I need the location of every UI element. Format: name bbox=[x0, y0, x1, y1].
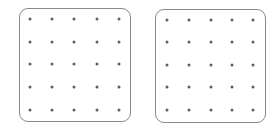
grid-dot bbox=[29, 41, 32, 44]
grid-dot bbox=[252, 64, 255, 67]
grid-dot bbox=[210, 19, 213, 22]
grid-dot bbox=[252, 19, 255, 22]
grid-dot bbox=[96, 18, 99, 21]
grid-dot bbox=[252, 86, 255, 89]
grid-dot bbox=[51, 109, 54, 112]
grid-dot bbox=[73, 109, 76, 112]
grid-dot bbox=[96, 109, 99, 112]
grid-dot bbox=[231, 19, 234, 22]
grid-dot bbox=[188, 41, 191, 44]
grid-dot bbox=[231, 64, 234, 67]
grid-dot bbox=[29, 63, 32, 66]
grid-dot bbox=[73, 18, 76, 21]
grid-dot bbox=[51, 41, 54, 44]
grid-dot bbox=[96, 41, 99, 44]
grid-dot bbox=[166, 41, 169, 44]
grid-dot bbox=[188, 86, 191, 89]
grid-dot bbox=[252, 109, 255, 112]
grid-dot bbox=[166, 64, 169, 67]
grid-dot bbox=[231, 86, 234, 89]
grid-dot bbox=[73, 86, 76, 89]
grid-dot bbox=[51, 18, 54, 21]
grid-dot bbox=[29, 109, 32, 112]
grid-dot bbox=[118, 18, 121, 21]
grid-dot bbox=[51, 86, 54, 89]
grid-dot bbox=[231, 109, 234, 112]
grid-dot bbox=[210, 109, 213, 112]
grid-dot bbox=[210, 64, 213, 67]
grid-dot bbox=[231, 41, 234, 44]
grid-dot bbox=[96, 63, 99, 66]
grid-dot bbox=[118, 63, 121, 66]
grid-dot bbox=[29, 18, 32, 21]
grid-dot bbox=[166, 86, 169, 89]
grid-dot bbox=[188, 64, 191, 67]
grid-dot bbox=[210, 41, 213, 44]
grid-dot bbox=[51, 63, 54, 66]
grid-dot bbox=[29, 86, 32, 89]
grid-dot bbox=[96, 86, 99, 89]
grid-dot bbox=[73, 63, 76, 66]
grid-dot bbox=[210, 86, 213, 89]
grid-dot bbox=[166, 19, 169, 22]
grid-dot bbox=[188, 19, 191, 22]
grid-dot bbox=[73, 41, 76, 44]
grid-dot bbox=[118, 109, 121, 112]
grid-dot bbox=[118, 41, 121, 44]
grid-dot bbox=[166, 109, 169, 112]
grid-dot bbox=[252, 41, 255, 44]
grid-dot bbox=[188, 109, 191, 112]
grid-dot bbox=[118, 86, 121, 89]
